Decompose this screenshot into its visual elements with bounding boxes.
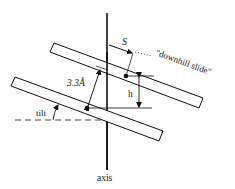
spacing-label: 3.3Å bbox=[66, 77, 85, 88]
slide-dotted-line bbox=[135, 52, 152, 56]
height-label: h bbox=[128, 89, 133, 99]
slide-arrow bbox=[109, 45, 132, 53]
slide-label: S bbox=[122, 36, 127, 47]
axis-label: axis bbox=[97, 173, 113, 183]
spacing-dimension-line bbox=[88, 70, 100, 106]
downhill-slide-label: "downhill slide" bbox=[154, 47, 213, 77]
tilt-label: tilt bbox=[36, 108, 47, 118]
stacking-diagram: S "downhill slide" 3.3Å h tilt axis bbox=[0, 0, 235, 189]
tilt-arc bbox=[53, 105, 58, 120]
